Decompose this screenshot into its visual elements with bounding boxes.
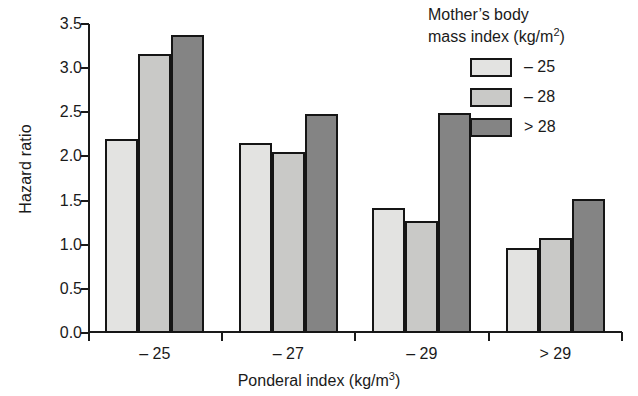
bar — [572, 199, 605, 333]
legend-title-base: mass index (kg/m — [428, 28, 553, 45]
bar — [239, 143, 272, 333]
x-axis-title: Ponderal index (kg/m3) — [0, 372, 638, 390]
bar — [539, 238, 572, 333]
x-axis-group-label: > 29 — [515, 345, 595, 363]
y-axis-tick-label: 3.0 — [38, 60, 82, 76]
y-axis-tick-mark — [81, 200, 89, 202]
legend-title-tail: ) — [560, 28, 565, 45]
x-axis-tick-mark — [221, 332, 223, 341]
x-axis-title-tail: ) — [395, 372, 400, 389]
x-axis-group-label: – 29 — [382, 345, 462, 363]
y-axis-tick-label: 1.5 — [38, 193, 82, 209]
y-axis-tick-label: 3.5 — [38, 16, 82, 32]
y-axis-tick-mark — [81, 244, 89, 246]
bar — [105, 139, 138, 333]
legend-swatch — [470, 58, 512, 77]
y-axis-line — [88, 24, 90, 333]
legend-title-line2: mass index (kg/m2) — [428, 26, 638, 48]
y-axis-tick-mark — [81, 288, 89, 290]
bar — [405, 221, 438, 333]
legend-items: – 25– 28> 28 — [428, 52, 638, 142]
x-axis-tick-mark — [88, 332, 90, 341]
y-axis-tick-label: 1.0 — [38, 237, 82, 253]
y-axis-tick-label: 2.0 — [38, 148, 82, 164]
legend-swatch — [470, 118, 512, 137]
bar — [506, 248, 539, 333]
legend-swatch — [470, 88, 512, 107]
legend-item: – 28 — [428, 82, 638, 112]
x-axis-tick-mark — [488, 332, 490, 341]
legend-label: – 25 — [524, 58, 555, 76]
y-axis-tick-label: 2.5 — [38, 104, 82, 120]
x-axis-tick-mark — [354, 332, 356, 341]
legend-item: > 28 — [428, 112, 638, 142]
y-axis-tick-label: 0.0 — [38, 325, 82, 341]
x-axis-title-base: Ponderal index (kg/m — [238, 372, 389, 389]
bar — [372, 208, 405, 333]
x-axis-group-label: – 27 — [248, 345, 328, 363]
bar-chart: Hazard ratio 0.00.51.01.52.02.53.03.5 Po… — [0, 0, 638, 396]
y-axis-tick-mark — [81, 23, 89, 25]
legend: Mother’s body mass index (kg/m2) – 25– 2… — [428, 4, 638, 142]
y-axis-tick-mark — [81, 155, 89, 157]
y-axis-title: Hazard ratio — [17, 99, 35, 239]
y-axis-tick-labels: 0.00.51.01.52.02.53.03.5 — [36, 0, 82, 396]
bar — [171, 35, 204, 333]
x-axis-group-label: – 25 — [115, 345, 195, 363]
bar — [438, 113, 471, 333]
bar — [272, 152, 305, 333]
y-axis-tick-label: 0.5 — [38, 281, 82, 297]
y-axis-tick-mark — [81, 111, 89, 113]
legend-title-line1: Mother’s body — [428, 4, 638, 26]
legend-label: – 28 — [524, 88, 555, 106]
bar — [138, 54, 171, 333]
legend-label: > 28 — [524, 118, 556, 136]
y-axis-tick-mark — [81, 67, 89, 69]
x-axis-tick-mark — [621, 332, 623, 341]
legend-item: – 25 — [428, 52, 638, 82]
bar — [305, 114, 338, 333]
